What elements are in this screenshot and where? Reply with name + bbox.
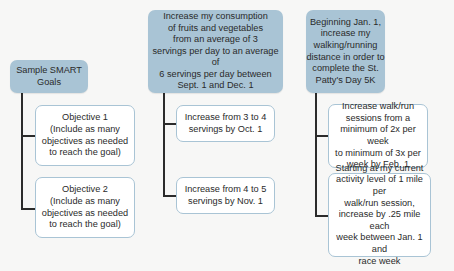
goal-header-fruits-vegetables: Increase my consumption of fruits and ve… <box>148 10 283 93</box>
connector-line <box>21 135 35 137</box>
objective-box: Objective 1 (Include as many objectives … <box>35 105 135 166</box>
connector-line <box>163 123 176 125</box>
connector-line <box>315 135 328 137</box>
connector-line <box>163 195 176 197</box>
connector-line <box>21 93 23 210</box>
connector-line <box>315 215 328 217</box>
objective-box: Increase from 3 to 4 servings by Oct. 1 <box>176 105 275 142</box>
goal-header-walking-running: Beginning Jan. 1, increase my walking/ru… <box>306 10 385 93</box>
connector-line <box>315 93 317 217</box>
connector-line <box>163 93 165 197</box>
connector-line <box>21 208 35 210</box>
goal-header-sample: Sample SMART Goals <box>10 60 88 93</box>
objective-box: Increase from 4 to 5 servings by Nov. 1 <box>176 177 275 214</box>
objective-box: Objective 2 (Include as many objectives … <box>35 177 135 238</box>
objective-box: Starting at my current activity level of… <box>328 173 431 257</box>
objective-box: Increase walk/run sessions from a minimu… <box>328 104 428 168</box>
